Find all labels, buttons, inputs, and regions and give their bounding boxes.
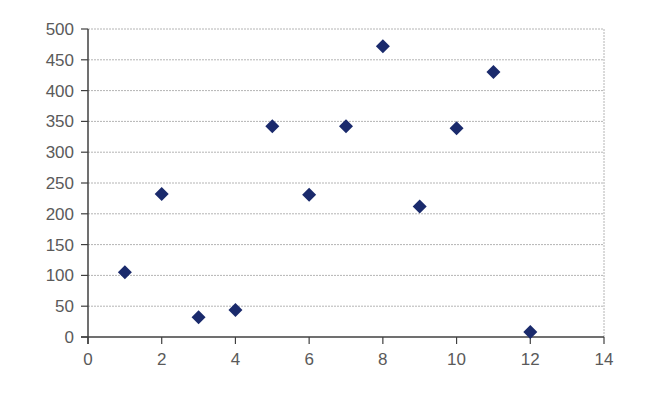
y-tick-label: 500 xyxy=(46,20,74,39)
x-tick-label: 2 xyxy=(157,350,166,369)
y-tick-label: 200 xyxy=(46,205,74,224)
y-tick-label: 100 xyxy=(46,266,74,285)
y-tick-label: 0 xyxy=(65,328,74,347)
data-point xyxy=(413,199,427,213)
x-tick-label: 6 xyxy=(304,350,313,369)
axes xyxy=(81,29,604,344)
data-point xyxy=(376,39,390,53)
data-points xyxy=(118,39,537,339)
x-tick-label: 8 xyxy=(378,350,387,369)
y-tick-label: 50 xyxy=(55,297,74,316)
data-point xyxy=(228,303,242,317)
y-tick-label: 350 xyxy=(46,112,74,131)
x-tick-label: 14 xyxy=(595,350,614,369)
data-point xyxy=(486,65,500,79)
data-point xyxy=(450,121,464,135)
data-point xyxy=(192,310,206,324)
x-axis-ticks: 02468101214 xyxy=(83,337,613,369)
y-tick-label: 300 xyxy=(46,143,74,162)
y-tick-label: 250 xyxy=(46,174,74,193)
y-tick-label: 450 xyxy=(46,51,74,70)
data-point xyxy=(302,188,316,202)
gridlines xyxy=(88,29,604,337)
x-tick-label: 4 xyxy=(231,350,240,369)
scatter-chart: 050100150200250300350400450500 024681012… xyxy=(0,0,645,405)
data-point xyxy=(155,187,169,201)
y-tick-label: 150 xyxy=(46,236,74,255)
x-tick-label: 0 xyxy=(83,350,92,369)
y-tick-label: 400 xyxy=(46,82,74,101)
data-point xyxy=(118,265,132,279)
x-tick-label: 12 xyxy=(521,350,540,369)
x-tick-label: 10 xyxy=(447,350,466,369)
y-axis-ticks: 050100150200250300350400450500 xyxy=(46,20,88,347)
